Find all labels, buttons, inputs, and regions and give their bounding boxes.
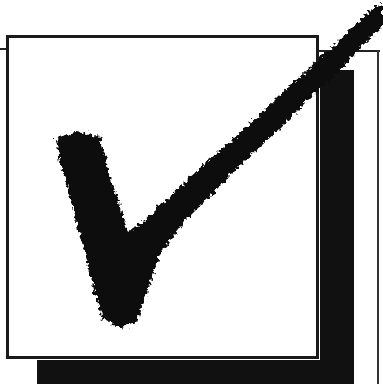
checkmark-icon xyxy=(0,0,383,384)
